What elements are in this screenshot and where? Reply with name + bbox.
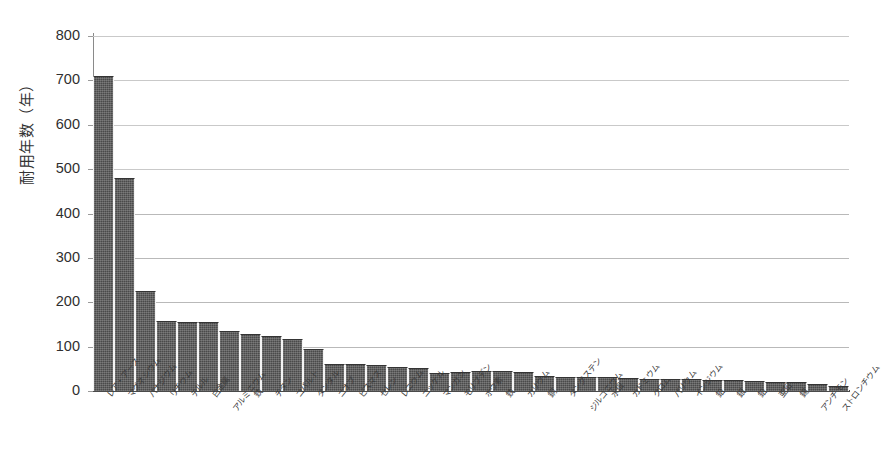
bar-slot: [765, 36, 786, 391]
bar-slot: [114, 36, 135, 391]
bar-slot: [240, 36, 261, 391]
bar-slot: [576, 36, 597, 391]
x-label-slot: チタン: [261, 392, 282, 476]
x-label-slot: マグネシウム: [114, 392, 135, 476]
x-label-slot: 銀: [723, 392, 744, 476]
bar-slot: [828, 36, 849, 391]
bar-slot: [450, 36, 471, 391]
x-label-slot: ニオブ: [324, 392, 345, 476]
x-label-slot: バリウム: [660, 392, 681, 476]
bar-slot: [660, 36, 681, 391]
x-label-slot: タンタル: [303, 392, 324, 476]
y-tick-label: 300: [0, 250, 80, 265]
bar-slot: [303, 36, 324, 391]
x-label-slot: ジルコニウム: [576, 392, 597, 476]
bar-slot: [156, 36, 177, 391]
x-label-slot: 鉛: [702, 392, 723, 476]
bar-slot: [429, 36, 450, 391]
bar-slot: [324, 36, 345, 391]
x-label-slot: テルル: [177, 392, 198, 476]
bar[interactable]: [807, 384, 828, 391]
x-label-slot: セレン: [366, 392, 387, 476]
y-tick-label: 0: [0, 383, 80, 398]
y-tick-label: 700: [0, 72, 80, 87]
y-tick-label: 600: [0, 117, 80, 132]
y-tick-label: 800: [0, 28, 80, 43]
bar-slot: [618, 36, 639, 391]
y-tick-label: 100: [0, 339, 80, 354]
x-label-slot: 白金属: [198, 392, 219, 476]
bar-slot: [366, 36, 387, 391]
bar-slot: [639, 36, 660, 391]
bar-slot: [681, 36, 702, 391]
bar-slot: [261, 36, 282, 391]
bar-slot: [492, 36, 513, 391]
bar-slot: [387, 36, 408, 391]
x-label-slot: 鉄: [240, 392, 261, 476]
bar-slot: [807, 36, 828, 391]
x-label-slot: マンガン: [429, 392, 450, 476]
x-label-slot: アンチモン: [807, 392, 828, 476]
bar-slot: [345, 36, 366, 391]
x-label-slot: リチウム: [156, 392, 177, 476]
bar-slot: [177, 36, 198, 391]
x-label-slot: レア・アース: [93, 392, 114, 476]
y-tick-label: 400: [0, 206, 80, 221]
x-label-slot: ビスマス: [345, 392, 366, 476]
x-label-slot: クロム: [639, 392, 660, 476]
bar-slot: [282, 36, 303, 391]
x-label-slot: ストロンチウム: [828, 392, 849, 476]
y-tick-label: 500: [0, 161, 80, 176]
x-label-slot: アルミニウム: [219, 392, 240, 476]
x-label-slot: カリウム: [513, 392, 534, 476]
bar-slot: [534, 36, 555, 391]
x-label-slot: インジウム: [681, 392, 702, 476]
x-label-slot: ホウ素: [471, 392, 492, 476]
x-label-slot: 亜鉛: [765, 392, 786, 476]
bar-slot: [597, 36, 618, 391]
x-label-slot: モリブデン: [450, 392, 471, 476]
x-label-slot: カドミウム: [618, 392, 639, 476]
bar-slot: [513, 36, 534, 391]
y-tick-label: 200: [0, 294, 80, 309]
bar-slot: [702, 36, 723, 391]
bar-slot: [135, 36, 156, 391]
bar-slot: [723, 36, 744, 391]
x-label-slot: バナジウム: [135, 392, 156, 476]
bar-slot: [744, 36, 765, 391]
x-label-slot: 水銀: [597, 392, 618, 476]
x-label-slot: 鉛: [744, 392, 765, 476]
bar-slot: [408, 36, 429, 391]
x-label-slot: コバルト: [282, 392, 303, 476]
plot-area: [93, 36, 849, 391]
x-label-slot: 銅: [534, 392, 555, 476]
bar-slot: [219, 36, 240, 391]
bars-layer: [93, 36, 849, 391]
bar-slot: [198, 36, 219, 391]
bar-slot: [786, 36, 807, 391]
bar-slot: [471, 36, 492, 391]
x-label-slot: レニウム: [387, 392, 408, 476]
bar[interactable]: [93, 76, 114, 391]
bar-slot: [555, 36, 576, 391]
x-label-slot: ニッケル: [408, 392, 429, 476]
bar-slot: [93, 36, 114, 391]
x-label-slot: 錫: [786, 392, 807, 476]
x-label-slot: タングステン: [555, 392, 576, 476]
x-axis-labels: レア・アースマグネシウムバナジウムリチウムテルル白金属アルミニウム鉄チタンコバル…: [93, 392, 850, 476]
x-label-slot: 鉄: [492, 392, 513, 476]
